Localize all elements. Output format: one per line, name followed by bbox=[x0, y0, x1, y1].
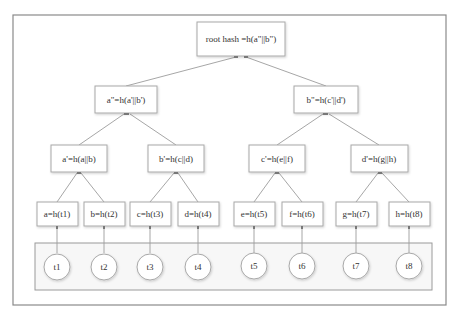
transaction-t7-label: t7 bbox=[352, 261, 359, 271]
node-d1-label: d'=h(g||h) bbox=[362, 154, 396, 164]
transaction-t3-label: t3 bbox=[146, 262, 153, 272]
leaf-f-label: f=h(t6) bbox=[289, 209, 315, 219]
transaction-t1-label: t1 bbox=[53, 262, 60, 272]
node-c1-label: c'=h(e||f) bbox=[261, 154, 293, 164]
leaf-e-label: e=h(t5) bbox=[241, 209, 268, 219]
leaf-b-label: b=h(t2) bbox=[90, 209, 117, 219]
leaf-h-label: h=h(t8) bbox=[395, 209, 422, 219]
node-a1-label: a'=h(a||b) bbox=[62, 154, 95, 164]
transaction-t8-label: t8 bbox=[405, 261, 412, 271]
leaf-a-label: a=h(t1) bbox=[44, 209, 71, 219]
node-b1-label: b'=h(c||d) bbox=[159, 154, 193, 164]
transaction-t2-label: t2 bbox=[100, 262, 107, 272]
transaction-t4-label: t4 bbox=[194, 262, 201, 272]
transaction-t5-label: t5 bbox=[250, 261, 257, 271]
node-b2-label: b"=h(c'||d') bbox=[306, 95, 345, 105]
node-a2-label: a"=h(a'||b') bbox=[107, 95, 146, 105]
leaf-d-label: d=h(t4) bbox=[184, 209, 211, 219]
leaf-g-label: g=h(t7) bbox=[342, 209, 369, 219]
transaction-t6-label: t6 bbox=[298, 261, 305, 271]
root-hash-label: root hash =h(a"||b") bbox=[206, 34, 277, 44]
leaf-c-label: c=h(t3) bbox=[137, 209, 164, 219]
